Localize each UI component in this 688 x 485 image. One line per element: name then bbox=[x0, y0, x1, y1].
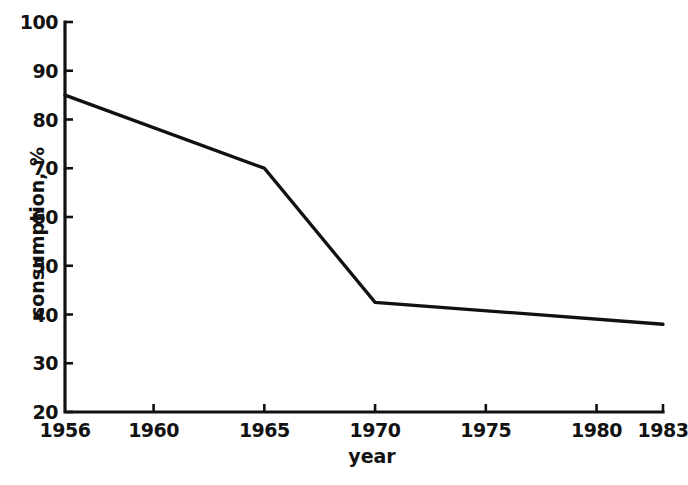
x-tick-label: 1970 bbox=[350, 419, 401, 441]
x-tick-label: 1956 bbox=[40, 419, 91, 441]
x-tick-label: 1960 bbox=[128, 419, 179, 441]
y-tick-label: 30 bbox=[33, 352, 58, 374]
x-tick-label: 1975 bbox=[460, 419, 511, 441]
y-tick-label: 80 bbox=[33, 109, 58, 131]
x-tick-label: 1983 bbox=[638, 419, 688, 441]
y-tick-label: 90 bbox=[33, 60, 58, 82]
y-axis-title: consumption, % bbox=[26, 147, 48, 318]
x-tick-label: 1965 bbox=[239, 419, 290, 441]
data-series-consumption bbox=[65, 95, 663, 324]
axis-lines bbox=[65, 22, 663, 412]
y-tick-label: 100 bbox=[20, 11, 58, 33]
x-axis-title: year bbox=[348, 445, 395, 467]
x-tick-label: 1980 bbox=[571, 419, 622, 441]
